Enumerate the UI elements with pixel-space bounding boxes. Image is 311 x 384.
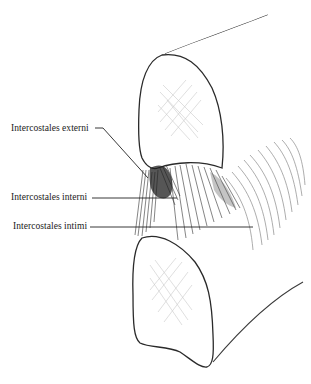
innermost-intercostal-fibers bbox=[226, 138, 305, 250]
external-intercostal-fibers bbox=[135, 165, 180, 236]
lower-rib bbox=[133, 236, 303, 367]
label-intercostales-externi: Intercostales externi bbox=[11, 124, 89, 134]
upper-rib bbox=[139, 14, 300, 169]
label-intercostales-interni: Intercostales interni bbox=[11, 193, 87, 203]
internal-intercostal-fibers bbox=[170, 164, 240, 240]
label-intercostales-intimi: Intercostales intimi bbox=[13, 222, 87, 232]
anatomy-figure: Intercostales externi Intercostales inte… bbox=[0, 0, 311, 384]
